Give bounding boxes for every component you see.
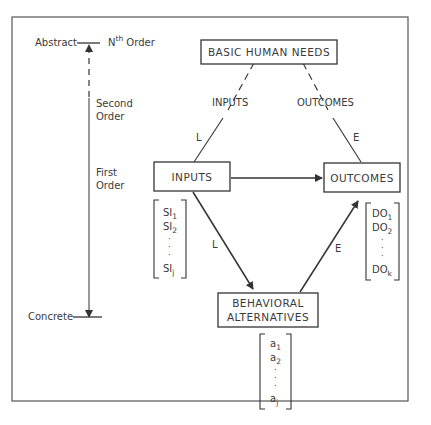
e-upper-label: E xyxy=(353,132,359,143)
svg-text:ALTERNATIVES: ALTERNATIVES xyxy=(227,311,309,323)
svg-text:Order: Order xyxy=(96,111,125,122)
svg-text:·: · xyxy=(274,382,277,391)
l-lower-label: L xyxy=(212,239,218,250)
svg-text:a1: a1 xyxy=(270,338,281,352)
nth-order-label: Nth Order xyxy=(108,34,156,48)
outer-frame xyxy=(12,17,408,401)
svg-text:INPUTS: INPUTS xyxy=(171,171,212,183)
outcomes-edge-label: OUTCOMES xyxy=(297,97,354,108)
arrow-up-icon xyxy=(85,44,93,52)
svg-text:BASIC HUMAN NEEDS: BASIC HUMAN NEEDS xyxy=(208,46,330,58)
outcomes-box: OUTCOMES xyxy=(324,163,400,192)
abstraction-scale: Abstract Nth Order Second Order First Or… xyxy=(28,34,156,322)
e-lower-label: E xyxy=(335,243,341,254)
svg-text:aj: aj xyxy=(270,393,278,407)
behavioral-alternatives-box: BEHAVIORAL ALTERNATIVES xyxy=(218,293,318,327)
second-order-label: Second xyxy=(96,98,133,109)
svg-text:OUTCOMES: OUTCOMES xyxy=(330,172,394,184)
first-order-label: First xyxy=(96,167,117,178)
inputs-box: INPUTS xyxy=(154,162,230,191)
diagram-canvas: Abstract Nth Order Second Order First Or… xyxy=(0,0,431,425)
svg-text:DOk: DOk xyxy=(372,264,393,278)
svg-text:SI1: SI1 xyxy=(163,207,177,221)
svg-text:DO2: DO2 xyxy=(372,222,393,236)
abstract-label: Abstract xyxy=(35,37,77,48)
concrete-label: Concrete xyxy=(28,311,73,322)
do-vector: DO1 DO2 · · · DOk xyxy=(366,203,399,280)
l-upper-label: L xyxy=(196,132,202,143)
svg-text:SI2: SI2 xyxy=(163,221,177,235)
svg-text:·: · xyxy=(381,252,384,261)
svg-text:SIj: SIj xyxy=(163,263,174,277)
svg-text:Order: Order xyxy=(96,180,125,191)
svg-text:·: · xyxy=(168,251,171,260)
basic-human-needs-box: BASIC HUMAN NEEDS xyxy=(201,40,337,64)
inputs-edge-label: INPUTS xyxy=(212,97,248,108)
svg-text:DO1: DO1 xyxy=(372,208,393,222)
svg-text:BEHAVIORAL: BEHAVIORAL xyxy=(232,297,304,309)
si-vector: SI1 SI2 · · · SIj xyxy=(154,200,186,278)
svg-text:a2: a2 xyxy=(270,352,281,366)
a-vector: a1 a2 · · · aj xyxy=(260,334,291,409)
